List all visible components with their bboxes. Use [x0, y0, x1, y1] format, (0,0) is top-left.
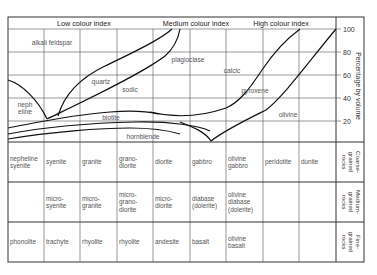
table-cell-text: (dolerite): [192, 202, 217, 210]
quartz-label: quartz: [92, 78, 110, 86]
table-cell-text: andesite: [155, 238, 180, 245]
table-cell-text: dunite: [301, 158, 319, 165]
table-cell-text: olivine: [228, 191, 247, 198]
y-axis-ticks: [336, 29, 341, 121]
vertical-gridlines: [44, 29, 299, 262]
table-cell-text: phonolite: [10, 238, 36, 246]
table-cell-text: syenite: [46, 202, 67, 210]
row-label-medium: Medium- grained rocks: [341, 190, 362, 214]
table-cell-text: gabbro: [228, 162, 248, 170]
table-cell-text: granite: [82, 202, 102, 210]
table-cell-text: micro-: [119, 191, 137, 198]
calcic-label: calcic: [224, 67, 241, 74]
table-cell-text: basalt: [192, 238, 209, 245]
table-cell-text: diorite: [155, 158, 173, 165]
svg-text:rocks: rocks: [341, 195, 348, 210]
svg-text:Medium-: Medium-: [355, 190, 362, 214]
tick-100: 100: [343, 26, 355, 33]
tick-80: 80: [343, 49, 351, 56]
olivine-label: olivine: [279, 111, 298, 118]
svg-text:Coarse-: Coarse-: [355, 151, 362, 173]
svg-text:grained: grained: [348, 192, 355, 213]
sodic-label: sodic: [122, 86, 138, 93]
high-colour-index-label: High colour index: [253, 19, 309, 28]
table-cell-text: olivine: [228, 235, 247, 242]
table-cell-text: granite: [82, 158, 102, 166]
table-cell-text: basalt: [228, 242, 245, 249]
table-cell-text: micro-: [155, 195, 173, 202]
table-cell-text: diorite: [155, 202, 173, 209]
tick-60: 60: [343, 72, 351, 79]
hornblende-pyroxene-v: [180, 29, 336, 141]
tick-20: 20: [343, 118, 351, 125]
table-cell-text: diorite: [119, 162, 137, 169]
table-cell-text: rhyolite: [119, 238, 140, 246]
svg-text:Fine-: Fine-: [355, 235, 362, 249]
table-cell-text: gabbro: [192, 158, 212, 166]
outer-border: [8, 17, 364, 262]
table-cell-text: diabase: [192, 195, 215, 202]
table-cell-text: diabase: [228, 198, 251, 205]
alkali-feldspar-quartz-boundary: [58, 29, 172, 116]
tick-40: 40: [343, 95, 351, 102]
table-cell-text: trachyte: [46, 238, 69, 246]
table-cell-text: olivine: [228, 155, 247, 162]
medium-colour-index-label: Medium colour index: [163, 19, 230, 28]
row-label-fine: Fine- grained rocks: [341, 232, 362, 253]
low-colour-index-label: Low colour index: [57, 19, 111, 28]
table-cell-text: (dolerite): [228, 206, 253, 214]
row-label-coarse: Coarse- grained rocks: [341, 151, 362, 173]
svg-text:rocks: rocks: [341, 155, 348, 170]
pyroxene-label: pyroxene: [241, 87, 268, 95]
table-cell-text: peridotite: [265, 158, 292, 166]
svg-text:grained: grained: [348, 232, 355, 253]
svg-text:rocks: rocks: [341, 235, 348, 250]
eline-label: eline: [18, 108, 32, 115]
hornblende-label: hornblende: [127, 133, 160, 140]
svg-text:grained: grained: [348, 152, 355, 173]
table-cell-text: syenite: [46, 158, 67, 166]
table-cell-text: diorite: [119, 206, 137, 213]
table-cell-text: micro-: [82, 195, 100, 202]
alkali-feldspar-label: alkali feldspar: [32, 39, 73, 47]
biotite-label: biotite: [102, 114, 120, 121]
table-cell-text: micro-: [46, 195, 64, 202]
plagioclase-label: plagioclase: [172, 56, 205, 64]
table-cell-text: rhyolite: [82, 238, 103, 246]
rock-table: nephelinesyenitesyenitegranitegrano-dior…: [10, 155, 319, 249]
table-cell-text: syenite: [10, 162, 31, 170]
igneous-rock-diagram: Low colour index Medium colour index Hig…: [0, 0, 377, 275]
y-axis-label: Percentage by volume: [354, 52, 362, 120]
